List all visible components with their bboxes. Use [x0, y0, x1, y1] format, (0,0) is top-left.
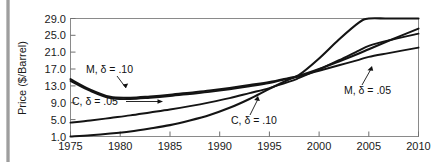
leader-line	[362, 69, 371, 85]
annotation-c-delta-10: C, δ = .10	[231, 96, 277, 126]
x-tick-label: 1995	[257, 140, 281, 152]
x-tick-label: 1980	[108, 140, 132, 152]
x-tick-label: 2000	[307, 140, 331, 152]
y-tick-label: 5.0	[51, 114, 66, 126]
annotation-m-delta-10: M, δ = .10	[86, 63, 133, 88]
y-tick-label: 21.0	[45, 46, 66, 58]
annotation-label: M, δ = .05	[344, 84, 391, 96]
y-tick-label: 13.0	[45, 80, 66, 92]
y-tick-label: 29.0	[45, 13, 66, 25]
leader-line	[250, 99, 258, 115]
annotation-label: C, δ = .05	[72, 95, 118, 107]
x-tick-label: 2005	[357, 140, 381, 152]
annotation-m-delta-05: M, δ = .05	[344, 66, 391, 96]
x-tick-label: 1985	[158, 140, 182, 152]
arrowhead-icon	[158, 99, 164, 103]
y-tick-label: 25.0	[45, 29, 66, 41]
x-tick-label: 2010	[406, 140, 430, 152]
annotation-label: M, δ = .10	[86, 63, 133, 75]
y-tick-label: 17.0	[45, 63, 66, 75]
chart-svg: Price ($/Barrel) 1.0 5.0 9.0 13.0 17.0 2…	[0, 0, 433, 162]
y-axis-title: Price ($/Barrel)	[16, 41, 28, 115]
price-barrel-line-chart: Price ($/Barrel) 1.0 5.0 9.0 13.0 17.0 2…	[0, 0, 433, 162]
annotation-label: C, δ = .10	[231, 114, 277, 126]
x-tick-label: 1975	[58, 140, 82, 152]
y-axis-tick-labels: 1.0 5.0 9.0 13.0 17.0 21.0 25.0 29.0	[45, 13, 66, 143]
y-axis-ticks	[71, 19, 76, 137]
chart-screenshot: Price ($/Barrel) 1.0 5.0 9.0 13.0 17.0 2…	[0, 0, 433, 162]
x-axis-tick-labels: 1975 1980 1985 1990 1995 2000 2005 2010	[58, 140, 430, 152]
y-tick-label: 9.0	[51, 97, 66, 109]
x-tick-label: 1990	[207, 140, 231, 152]
arrowhead-icon	[367, 66, 373, 71]
